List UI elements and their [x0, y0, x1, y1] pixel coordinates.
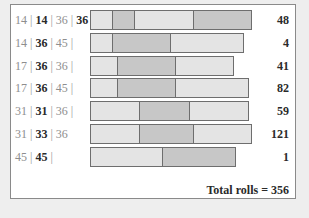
row-label: 14 | 36 | 45 | [15, 33, 73, 53]
stacked-bar [90, 10, 252, 30]
total-rolls-label: Total rolls = 356 [206, 181, 289, 199]
label-separator: | [47, 13, 55, 27]
label-value: 17 [15, 81, 27, 95]
bar-segment-highlighted [118, 56, 176, 76]
bar-segment-highlighted [140, 124, 193, 144]
label-separator: | [68, 13, 76, 27]
bar-segment-highlighted [140, 101, 190, 121]
bar-segment [194, 124, 252, 144]
label-value: 31 [15, 127, 27, 141]
bar-segment-highlighted [194, 10, 252, 30]
bar-segment-highlighted [118, 78, 176, 98]
label-value: 45 [56, 81, 68, 95]
label-value-highlighted: 33 [35, 127, 47, 141]
row-label: 45 | 45 | [15, 147, 53, 167]
chart-frame: 14 | 14 | 36 | 364814 | 36 | 45 |417 | 3… [10, 4, 296, 199]
label-value-highlighted: 36 [35, 59, 47, 73]
chart-row: 45 | 45 |1 [11, 147, 295, 167]
label-separator: | [68, 104, 73, 118]
label-separator: | [47, 59, 55, 73]
stacked-bar [90, 147, 236, 167]
row-label: 17 | 36 | 36 | [15, 56, 73, 76]
bar-segment [90, 33, 113, 53]
row-label: 14 | 14 | 36 | 36 [15, 10, 88, 30]
label-value-highlighted: 36 [76, 13, 88, 27]
label-separator: | [68, 36, 73, 50]
label-value-highlighted: 14 [35, 13, 47, 27]
label-separator: | [68, 59, 73, 73]
label-separator: | [47, 36, 55, 50]
bar-segment-highlighted [113, 33, 171, 53]
bar-segment [190, 101, 248, 121]
bar-segment-highlighted [163, 147, 236, 167]
label-value-highlighted: 36 [35, 36, 47, 50]
bar-segment [90, 78, 118, 98]
label-value: 45 [15, 150, 27, 164]
row-label: 31 | 31 | 36 | [15, 101, 73, 121]
label-value-highlighted: 45 [35, 150, 47, 164]
row-count: 41 [277, 56, 289, 76]
bar-segment [176, 78, 249, 98]
bar-segment-highlighted [113, 10, 136, 30]
stacked-bar [90, 56, 234, 76]
stacked-bar [90, 101, 249, 121]
bar-segment [90, 56, 118, 76]
label-value: 36 [56, 13, 68, 27]
label-value: 36 [56, 59, 68, 73]
label-value: 14 [15, 13, 27, 27]
stacked-bar [90, 124, 252, 144]
bar-segment [176, 56, 234, 76]
bar-segment [135, 10, 193, 30]
row-count: 1 [283, 147, 289, 167]
chart-row: 31 | 33 | 36121 [11, 124, 295, 144]
chart-row: 17 | 36 | 36 |41 [11, 56, 295, 76]
label-value: 36 [56, 127, 68, 141]
label-value: 45 [56, 36, 68, 50]
bar-segment [90, 10, 113, 30]
bar-segment [90, 124, 140, 144]
label-separator: | [68, 81, 73, 95]
row-count: 48 [277, 10, 289, 30]
label-value: 36 [56, 104, 68, 118]
chart-row: 14 | 36 | 45 |4 [11, 33, 295, 53]
label-value-highlighted: 31 [35, 104, 47, 118]
row-count: 82 [277, 78, 289, 98]
label-separator: | [47, 81, 55, 95]
label-value: 14 [15, 36, 27, 50]
stacked-bar [90, 33, 244, 53]
row-label: 31 | 33 | 36 [15, 124, 68, 144]
row-count: 59 [277, 101, 289, 121]
stacked-bar [90, 78, 249, 98]
bar-segment [171, 33, 244, 53]
chart-row: 31 | 31 | 36 |59 [11, 101, 295, 121]
row-count: 4 [283, 33, 289, 53]
chart-row: 17 | 36 | 45 |82 [11, 78, 295, 98]
label-value-highlighted: 36 [35, 81, 47, 95]
label-separator: | [47, 127, 55, 141]
bar-segment [90, 101, 140, 121]
bar-segment [90, 147, 163, 167]
label-separator: | [47, 104, 55, 118]
row-count: 121 [271, 124, 289, 144]
chart-row: 14 | 14 | 36 | 3648 [11, 10, 295, 30]
label-value: 31 [15, 104, 27, 118]
row-label: 17 | 36 | 45 | [15, 78, 73, 98]
label-separator: | [47, 150, 52, 164]
label-value: 17 [15, 59, 27, 73]
